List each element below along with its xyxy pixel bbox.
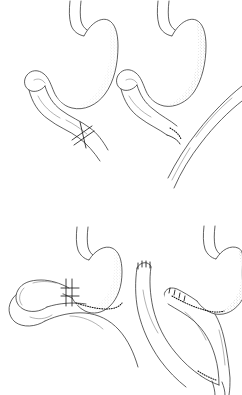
gastric-reconstruction-figure — [0, 0, 242, 395]
figure-root — [0, 0, 242, 395]
